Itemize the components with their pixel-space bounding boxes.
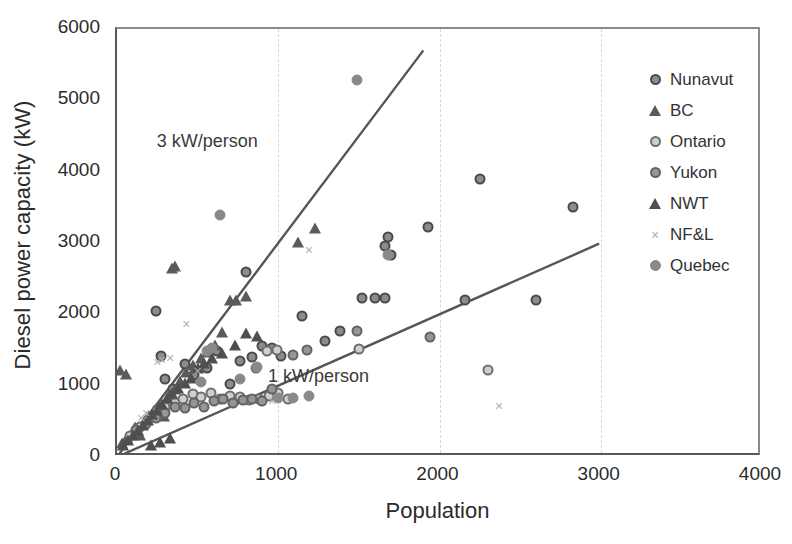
legend-item-yukon[interactable]: Yukon: [647, 157, 758, 188]
legend: NunavutBCOntarioYukonNWTNF&LQuebec: [647, 64, 758, 281]
legend-item-quebec[interactable]: Quebec: [647, 250, 758, 281]
x-tick-label: 4000: [739, 463, 781, 485]
circle-filled-icon: [647, 258, 663, 274]
x-axis-tick-labels: 01000200030004000: [115, 463, 760, 491]
legend-label: BC: [670, 101, 694, 121]
legend-label: NWT: [670, 194, 709, 214]
legend-item-ontario[interactable]: Ontario: [647, 126, 758, 157]
legend-item-nunavut[interactable]: Nunavut: [647, 64, 758, 95]
y-axis-tick-labels: 6000500040003000200010000: [16, 27, 108, 455]
legend-marker: [650, 136, 661, 147]
plot-inner: 3 kW/person1 kW/person NunavutBCOntarioY…: [117, 29, 758, 453]
legend-item-bc[interactable]: BC: [647, 95, 758, 126]
plot-area: 3 kW/person1 kW/person NunavutBCOntarioY…: [115, 27, 760, 455]
y-tick-label: 3000: [16, 230, 108, 252]
y-tick-label: 1000: [16, 373, 108, 395]
x-tick-label: 0: [110, 463, 121, 485]
triangle-icon: [647, 103, 663, 119]
triangle-icon: [647, 196, 663, 212]
y-tick-label: 4000: [16, 159, 108, 181]
legend-label: Yukon: [670, 163, 717, 183]
legend-label: Ontario: [670, 132, 726, 152]
scatter-chart: Diesel power capacity (kW) 6000500040003…: [0, 0, 792, 544]
circle-dark-ring-icon: [647, 72, 663, 88]
chart-annotation: 3 kW/person: [157, 130, 258, 151]
legend-label: Quebec: [670, 256, 730, 276]
legend-marker: [650, 167, 661, 178]
legend-marker: [650, 74, 661, 85]
legend-label: Nunavut: [670, 70, 733, 90]
legend-item-nwt[interactable]: NWT: [647, 188, 758, 219]
circle-light-icon: [647, 134, 663, 150]
legend-marker: [650, 260, 661, 271]
legend-label: NF&L: [670, 225, 713, 245]
x-tick-label: 3000: [578, 463, 620, 485]
y-tick-label: 0: [16, 444, 108, 466]
y-tick-label: 5000: [16, 87, 108, 109]
legend-marker: [649, 229, 661, 241]
legend-marker: [649, 198, 661, 209]
x-axis-title: Population: [115, 498, 760, 524]
x-tick-label: 2000: [416, 463, 458, 485]
legend-item-nf-l[interactable]: NF&L: [647, 219, 758, 250]
y-tick-label: 6000: [16, 16, 108, 38]
y-tick-label: 2000: [16, 301, 108, 323]
cross-icon: [647, 227, 663, 243]
x-tick-label: 1000: [255, 463, 297, 485]
legend-marker: [649, 105, 661, 116]
circle-grey-icon: [647, 165, 663, 181]
reference-line: [117, 244, 599, 453]
reference-line: [117, 50, 423, 453]
chart-annotation: 1 kW/person: [268, 366, 369, 387]
